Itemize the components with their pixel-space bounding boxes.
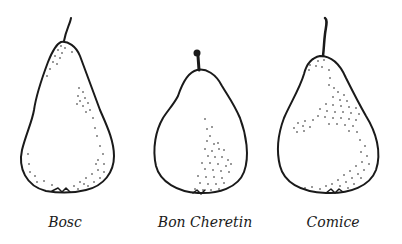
bosc-stem	[64, 18, 71, 41]
label-comice: Comice	[306, 214, 359, 230]
pear-bosc-drawing	[21, 18, 114, 192]
bosc-body	[21, 42, 114, 193]
pear-illustration	[0, 0, 402, 244]
label-bosc: Bosc	[48, 214, 82, 230]
pear-comice-drawing	[278, 18, 378, 193]
comice-body	[278, 56, 378, 193]
comice-stem	[323, 18, 327, 56]
label-bon-cheretin: Bon Cheretin	[158, 214, 252, 230]
bon-cheretin-stem	[198, 56, 199, 70]
bon-cheretin-body	[154, 70, 247, 193]
pear-bon-cheretin-drawing	[154, 50, 247, 195]
